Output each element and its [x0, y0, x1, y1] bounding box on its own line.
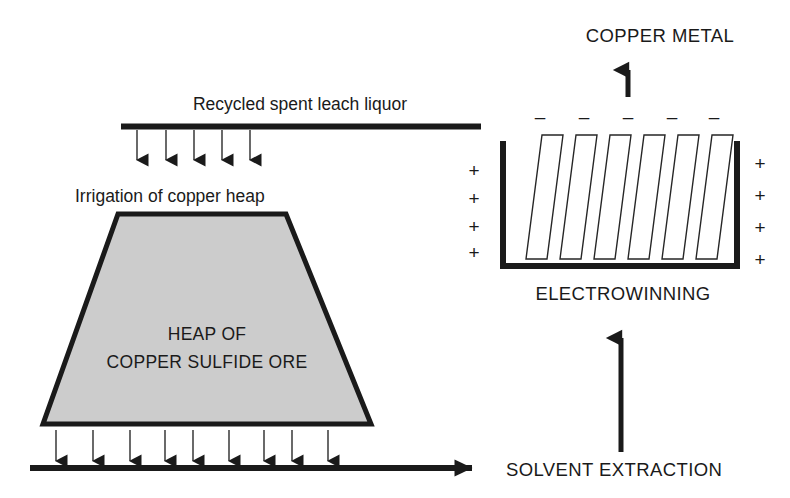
solvent-extraction-label: SOLVENT EXTRACTION: [506, 459, 722, 480]
copper-metal-label: COPPER METAL: [586, 25, 734, 46]
irrigation-arrow-group: [137, 130, 250, 160]
anode-sign: +: [468, 160, 479, 181]
electrode-plate: [560, 135, 597, 259]
cathode-sign: –: [579, 106, 590, 127]
heap-label-line-2: COPPER SULFIDE ORE: [107, 352, 308, 372]
anode-sign: +: [468, 188, 479, 209]
drainage-arrow-group: [56, 430, 328, 461]
electrowinning-label: ELECTROWINNING: [535, 283, 710, 304]
electrode-plate: [662, 135, 699, 259]
electrode-plate: [594, 135, 631, 259]
anode-sign: +: [468, 216, 479, 237]
anode-sign: +: [754, 153, 765, 174]
anode-sign: +: [754, 249, 765, 270]
electrode-plate: [696, 135, 733, 259]
cathode-sign: –: [709, 106, 720, 127]
cathode-sign: –: [623, 106, 634, 127]
anode-sign: +: [468, 242, 479, 263]
heap-label-line-1: HEAP OF: [168, 324, 247, 344]
anode-sign: +: [754, 185, 765, 206]
electrode-plate: [526, 135, 563, 259]
cathode-sign-group: – – – – –: [535, 106, 720, 127]
anode-sign: +: [754, 217, 765, 238]
anode-sign-group-right: + + + +: [754, 153, 765, 270]
diagram-canvas: Recycled spent leach liquor Irrigation o…: [0, 0, 790, 498]
process-diagram: Recycled spent leach liquor Irrigation o…: [0, 0, 790, 498]
electrode-plate: [628, 135, 665, 259]
cathode-sign: –: [535, 106, 546, 127]
recycled-liquor-label: Recycled spent leach liquor: [193, 94, 407, 114]
cathode-sign: –: [667, 106, 678, 127]
irrigation-label: Irrigation of copper heap: [75, 186, 265, 206]
electrode-plate-group: [526, 135, 733, 259]
anode-sign-group-left: + + + +: [468, 160, 479, 263]
ore-heap-shape: [43, 214, 371, 424]
